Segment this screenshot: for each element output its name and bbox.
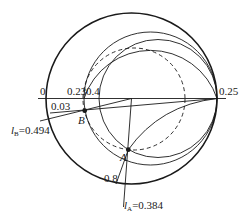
- label-right-025: 0.25: [219, 85, 239, 97]
- swr-circle-dashed: [83, 48, 185, 150]
- label-08: 0.8: [104, 172, 118, 184]
- label-lb: lB=0.494: [11, 124, 50, 138]
- line-003-to-right: [50, 99, 217, 114]
- diagram-canvas: 0 0.23 0.4 0.25 0.03 0.8 B A lB=0.494 lA…: [0, 0, 244, 220]
- point-b: [82, 108, 87, 113]
- label-r04: 0.4: [86, 85, 100, 97]
- label-point-b: B: [78, 114, 85, 126]
- label-003: 0.03: [51, 100, 71, 112]
- arc-a-to-right: [128, 99, 217, 150]
- label-r023: 0.23: [67, 85, 87, 97]
- smith-chart-diagram: 0 0.23 0.4 0.25 0.03 0.8 B A lB=0.494 lA…: [0, 0, 244, 220]
- label-point-a: A: [119, 151, 127, 163]
- label-la: lA=0.384: [124, 199, 164, 213]
- label-zero: 0: [40, 85, 46, 97]
